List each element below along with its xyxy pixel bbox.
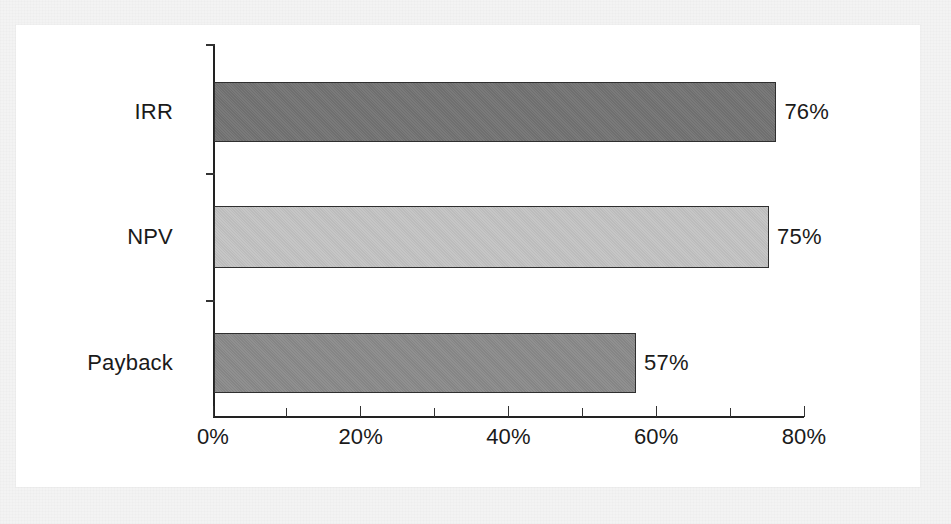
x-tick-70: [730, 408, 731, 417]
category-label-npv: NPV: [127, 226, 173, 248]
chart-canvas: IRRNPVPayback 76%75%57% 0%20%40%60%80%: [0, 0, 951, 524]
x-tick-label-60: 60%: [634, 425, 679, 449]
plot-area: IRRNPVPayback 76%75%57% 0%20%40%60%80%: [16, 25, 920, 487]
value-label-payback: 57%: [644, 352, 689, 374]
chart-paper-panel: IRRNPVPayback 76%75%57% 0%20%40%60%80%: [16, 25, 920, 487]
x-tick-label-80: 80%: [782, 425, 827, 449]
bar-npv: [214, 206, 769, 268]
x-tick-0: [213, 406, 214, 417]
category-label-payback: Payback: [87, 352, 173, 374]
x-tick-10: [286, 408, 287, 417]
x-tick-label-20: 20%: [338, 425, 383, 449]
x-tick-30: [434, 408, 435, 417]
x-tick-60: [656, 406, 657, 417]
bar-payback: [214, 333, 636, 393]
x-tick-label-40: 40%: [486, 425, 531, 449]
y-tick-irr: [206, 44, 215, 46]
category-label-irr: IRR: [135, 101, 174, 123]
x-tick-40: [508, 406, 509, 417]
value-label-npv: 75%: [777, 226, 822, 248]
value-label-irr: 76%: [784, 101, 829, 123]
x-tick-label-0: 0%: [197, 425, 229, 449]
y-tick-npv: [206, 173, 215, 175]
bar-irr: [214, 82, 776, 142]
x-tick-20: [360, 406, 361, 417]
x-tick-80: [804, 406, 805, 417]
y-tick-payback: [206, 300, 215, 302]
x-tick-50: [582, 408, 583, 417]
